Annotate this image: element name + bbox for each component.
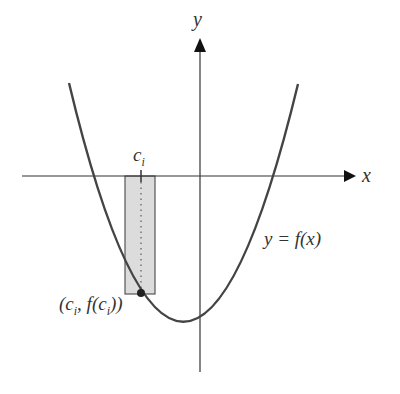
riemann-rectangle-diagram: y x ci y = f(x) (ci, f(ci)) xyxy=(0,0,400,394)
point-label-close: )) xyxy=(110,293,123,314)
point-label-open: (c xyxy=(59,293,74,314)
sample-rectangle xyxy=(125,176,155,294)
point-label-mid: , f(c xyxy=(77,293,107,314)
curve-label: y = f(x) xyxy=(264,228,321,250)
point-label: (ci, f(ci)) xyxy=(59,293,123,319)
y-axis-label: y xyxy=(193,8,202,31)
y-axis-arrow-icon xyxy=(194,38,206,52)
ci-label: ci xyxy=(133,144,145,170)
x-axis-arrow-icon xyxy=(344,170,356,182)
function-curve xyxy=(69,83,298,322)
diagram-canvas xyxy=(0,0,400,394)
x-axis-label: x xyxy=(362,164,371,187)
sample-point xyxy=(137,289,145,297)
ci-label-sub: i xyxy=(141,155,144,169)
